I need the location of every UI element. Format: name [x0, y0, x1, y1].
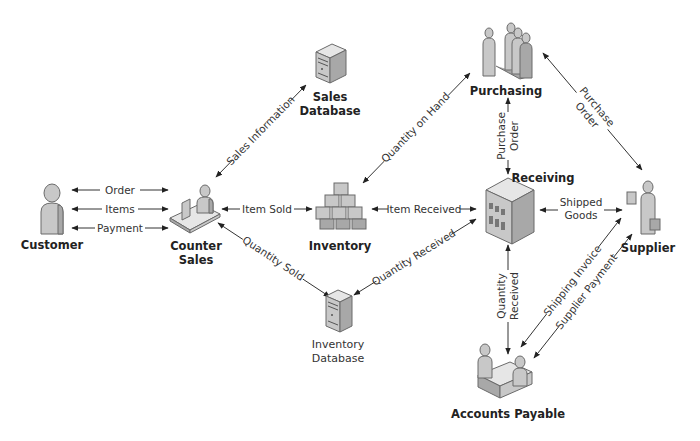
node-label-inventory-database-2: Database	[312, 352, 365, 365]
node-customer: Customer	[21, 184, 84, 252]
node-inventory: Inventory	[309, 183, 372, 253]
edge-label-item-sold: Item Sold	[242, 203, 292, 215]
edge-label-quantity-sold: Quantity Sold	[240, 233, 306, 282]
node-label-sales-database-2: Database	[299, 104, 360, 118]
edge-quantity-sold: Quantity Sold	[218, 223, 330, 297]
node-label-receiving: Receiving	[511, 171, 574, 185]
edge-label-quantity-received-db: Quantity Received	[369, 226, 457, 287]
person-icon	[41, 184, 63, 234]
edge-label-quantity-on-hand: Quantity on Hand	[379, 90, 452, 165]
edge-label-quantity-received-ap-2: Received	[508, 272, 520, 320]
node-inventory-database: Inventory Database	[312, 290, 365, 365]
node-label-supplier: Supplier	[621, 241, 676, 255]
node-label-accounts-payable: Accounts Payable	[451, 407, 565, 421]
edge-items: Items	[72, 201, 168, 215]
diagram-canvas: Order Items Payment Sales Information It…	[0, 0, 700, 441]
edge-order: Order	[72, 182, 168, 196]
server-icon	[316, 44, 346, 83]
node-accounts-payable: Accounts Payable	[451, 344, 565, 421]
edge-item-sold: Item Sold	[222, 201, 312, 215]
node-supplier: Supplier	[621, 181, 676, 255]
edge-payment: Payment	[72, 220, 168, 234]
edge-quantity-on-hand: Quantity on Hand	[363, 73, 470, 183]
node-label-counter-sales-1: Counter	[170, 239, 222, 253]
node-label-counter-sales-2: Sales	[179, 253, 214, 267]
edge-label-purchase-order-v-1: Purchase	[495, 112, 507, 160]
edge-label-shipped-goods-2: Goods	[564, 209, 597, 221]
group-of-people-icon	[483, 23, 532, 79]
edge-label-purchase-order-v-2: Order	[508, 120, 520, 151]
edge-quantity-received-db: Quantity Received	[354, 219, 476, 295]
edge-label-order: Order	[105, 184, 136, 196]
node-label-customer: Customer	[21, 238, 84, 252]
edge-label-item-received: Item Received	[386, 203, 461, 215]
boxes-icon	[316, 183, 366, 229]
edge-label-shipped-goods-1: Shipped	[560, 196, 603, 208]
edge-label-payment: Payment	[97, 222, 143, 234]
edge-sales-information: Sales Information	[216, 85, 306, 177]
meeting-icon	[478, 344, 532, 398]
edge-purchase-order-vertical: Purchase Order	[494, 98, 522, 174]
edge-shipped-goods: Shipped Goods	[540, 194, 622, 224]
edge-purchase-order-diag: Purchase Order	[543, 53, 642, 170]
edge-label-items: Items	[105, 203, 134, 215]
edge-item-received: Item Received	[372, 201, 476, 215]
edge-shipping-invoice: Shipping Invoice	[521, 218, 621, 347]
edge-supplier-payment: Supplier Payment	[534, 234, 632, 358]
node-label-sales-database-1: Sales	[313, 90, 348, 104]
edge-label-quantity-received-ap-1: Quantity	[495, 273, 507, 318]
node-purchasing: Purchasing	[470, 23, 542, 98]
edge-label-sales-information: Sales Information	[224, 93, 297, 167]
building-icon	[486, 178, 534, 244]
node-counter-sales: Counter Sales	[170, 185, 222, 267]
node-sales-database: Sales Database	[299, 44, 360, 118]
node-label-inventory-database-1: Inventory	[312, 338, 365, 351]
node-label-inventory: Inventory	[309, 239, 372, 253]
person-with-briefcase-icon	[627, 181, 660, 234]
person-at-desk-icon	[170, 185, 220, 233]
server-icon	[326, 290, 352, 332]
edge-quantity-received-ap: Quantity Received	[494, 245, 522, 354]
node-label-purchasing: Purchasing	[470, 84, 542, 98]
